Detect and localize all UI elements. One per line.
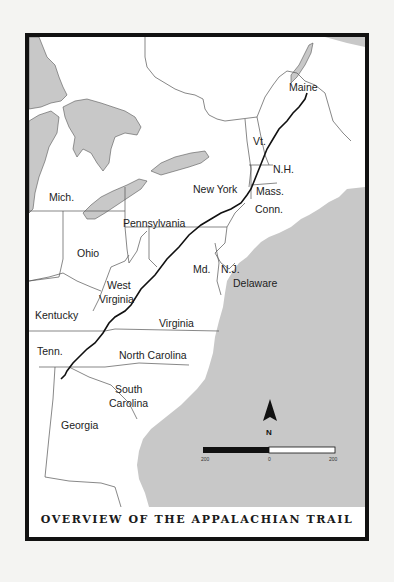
label-north-carolina: North Carolina bbox=[119, 349, 187, 361]
lake-huron bbox=[63, 99, 141, 171]
canada-border bbox=[145, 37, 351, 141]
label-south-carolina-2: Carolina bbox=[109, 397, 148, 409]
label-ohio: Ohio bbox=[77, 247, 99, 259]
label-west-virginia-1: West bbox=[107, 279, 131, 291]
map-frame: Maine Vt. N.H. Mass. Conn. New York Mich… bbox=[25, 33, 369, 541]
label-maine: Maine bbox=[289, 81, 318, 93]
svg-text:200: 200 bbox=[201, 456, 210, 462]
label-kentucky: Kentucky bbox=[35, 309, 79, 321]
label-delaware: Delaware bbox=[233, 277, 278, 289]
map-title: OVERVIEW OF THE APPALACHIAN TRAIL bbox=[29, 513, 365, 526]
label-west-virginia-2: Virginia bbox=[99, 293, 134, 305]
lake-ontario bbox=[151, 151, 209, 175]
label-virginia: Virginia bbox=[159, 317, 194, 329]
svg-text:200: 200 bbox=[329, 456, 338, 462]
western-water bbox=[29, 37, 67, 109]
label-pennsylvania: Pennsylvania bbox=[123, 217, 186, 229]
label-tenn: Tenn. bbox=[37, 345, 63, 357]
label-nh: N.H. bbox=[273, 163, 294, 175]
label-new-york: New York bbox=[193, 183, 238, 195]
svg-text:0: 0 bbox=[268, 456, 271, 462]
label-md: Md. bbox=[193, 263, 211, 275]
label-mich: Mich. bbox=[49, 191, 74, 203]
label-vt: Vt. bbox=[253, 135, 266, 147]
st-lawrence bbox=[291, 43, 313, 83]
map-svg: Maine Vt. N.H. Mass. Conn. New York Mich… bbox=[29, 37, 365, 507]
label-south-carolina-1: South bbox=[115, 383, 143, 395]
gulf-water bbox=[325, 37, 365, 47]
map-area: Maine Vt. N.H. Mass. Conn. New York Mich… bbox=[29, 37, 365, 507]
lake-erie bbox=[83, 179, 147, 219]
label-nj: N.J. bbox=[221, 263, 240, 275]
label-conn: Conn. bbox=[255, 203, 283, 215]
label-mass: Mass. bbox=[256, 185, 284, 197]
label-georgia: Georgia bbox=[61, 419, 99, 431]
svg-text:N: N bbox=[266, 428, 272, 437]
